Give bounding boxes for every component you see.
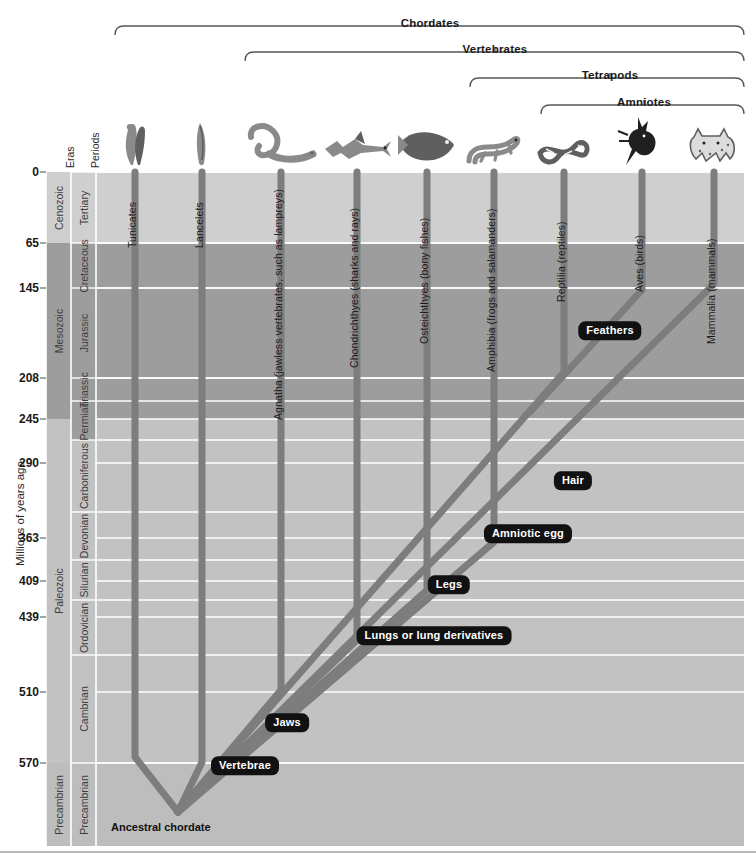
period-label-jurassic: Jurassic [78, 314, 90, 353]
taxon-label-8: Mammalia (mammals) [705, 238, 717, 344]
taxon-label-2: Agnatha (jawless vertebrates, such as la… [272, 189, 284, 420]
taxon-label-1: Lancelets [193, 202, 205, 248]
y-tick-510: 510 [0, 685, 39, 699]
period-label-cambrian: Cambrian [78, 686, 90, 732]
eras-column-header: Eras [64, 146, 76, 168]
innovation-callout-vertebrae: Vertebrae [211, 756, 279, 775]
period-label-permian: Permian [78, 401, 90, 440]
taxon-label-4: Osteichthyes (bony fishes) [418, 218, 430, 344]
taxon-label-6: Reptilia (reptiles) [555, 221, 567, 302]
period-label-cretaceous: Cretaceous [78, 239, 90, 293]
period-label-precambrian: Precambrian [78, 775, 90, 835]
y-tick-290: 290 [0, 456, 39, 470]
clade-bracket-group [0, 0, 756, 854]
y-tick-208: 208 [0, 371, 39, 385]
phylogenetic-tree-figure: ChordatesVertebratesTetrapodsAmniotes Mi… [0, 0, 756, 854]
innovation-callout-legs: Legs [428, 575, 470, 594]
period-label-tertiary: Tertiary [78, 190, 90, 224]
y-tick-363: 363 [0, 531, 39, 545]
period-label-ordovician: Ordovician [78, 602, 90, 652]
era-label-precambrian: Precambrian [53, 775, 65, 835]
innovation-callout-hair: Hair [554, 471, 592, 490]
taxon-label-7: Aves (birds) [633, 235, 645, 292]
periods-column-header: Periods [89, 132, 101, 168]
innovation-callout-lungs-or-lung-derivatives: Lungs or lung derivatives [357, 626, 512, 645]
y-tick-245: 245 [0, 412, 39, 426]
era-label-paleozoic: Paleozoic [53, 568, 65, 614]
ancestral-chordate-label: Ancestral chordate [111, 821, 211, 833]
era-label-mesozoic: Mesozoic [53, 309, 65, 353]
period-label-devonian: Devonian [78, 514, 90, 558]
innovation-callout-jaws: Jaws [265, 713, 309, 732]
clade-label-vertebrates: Vertebrates [463, 43, 528, 55]
taxon-label-3: Chondrichthyes (sharks and rays) [348, 208, 360, 368]
innovation-callout-feathers: Feathers [578, 321, 641, 340]
clade-label-tetrapods: Tetrapods [582, 69, 639, 81]
y-tick-145: 145 [0, 281, 39, 295]
y-tick-570: 570 [0, 756, 39, 770]
era-label-cenozoic: Cenozoic [53, 186, 65, 230]
taxon-label-5: Amphibia (frogs and salamanders) [485, 208, 497, 372]
clade-label-amniotes: Amniotes [617, 96, 671, 108]
y-axis-title: Millions of years ago [14, 461, 26, 566]
y-tick-439: 439 [0, 610, 39, 624]
y-tick-409: 409 [0, 574, 39, 588]
innovation-callout-amniotic-egg: Amniotic egg [484, 524, 572, 543]
taxon-label-0: Tunicates [126, 202, 138, 248]
period-label-silurian: Silurian [78, 562, 90, 597]
clade-label-chordates: Chordates [401, 17, 460, 29]
y-tick-65: 65 [0, 236, 39, 250]
y-tick-0: 0 [0, 165, 39, 179]
period-label-carboniferous: Carboniferous [78, 443, 90, 509]
